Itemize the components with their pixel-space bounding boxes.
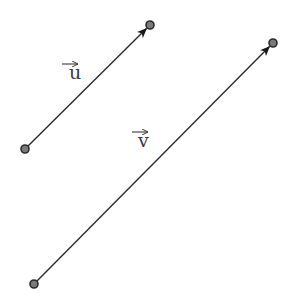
vector-v-label: v — [137, 129, 149, 151]
vector-u-label: u — [69, 61, 81, 83]
vector-v-start-point — [30, 280, 38, 288]
vector-u-start-point — [21, 145, 29, 153]
vector-u-line — [25, 29, 146, 149]
vector-v-end-point — [269, 39, 277, 47]
vector-v: v — [30, 39, 277, 288]
vector-u-end-point — [146, 21, 154, 29]
vector-diagram: u v — [0, 0, 293, 307]
vector-u: u — [21, 21, 154, 153]
